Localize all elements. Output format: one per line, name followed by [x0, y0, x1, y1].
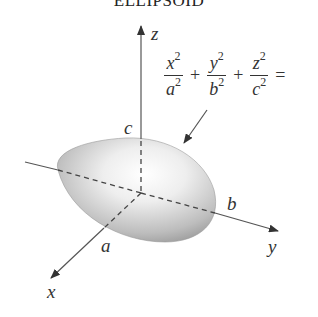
y-axis-label: y — [268, 237, 276, 256]
ellipsoid-diagram — [0, 0, 318, 317]
ellipsoid-surface — [57, 138, 215, 242]
y-axis-negative — [25, 162, 58, 170]
ellipsoid-equation: x2 a2 + y2 b2 + z2 c2 = — [162, 52, 290, 99]
intercept-b-label: b — [227, 194, 237, 213]
z-axis-label: z — [151, 24, 158, 43]
plus-sign: + — [190, 65, 200, 86]
term-x: x2 a2 — [164, 52, 183, 99]
intercept-a-label: a — [101, 236, 111, 255]
x-axis-label: x — [47, 282, 55, 301]
x-axis — [51, 228, 104, 278]
y-axis — [215, 213, 278, 231]
equals-sign: = — [275, 65, 285, 86]
intercept-c-label: c — [124, 118, 132, 137]
equation-pointer-arrow — [184, 110, 207, 143]
plus-sign: + — [233, 65, 243, 86]
term-z: z2 c2 — [250, 52, 268, 99]
term-y: y2 b2 — [207, 52, 226, 99]
